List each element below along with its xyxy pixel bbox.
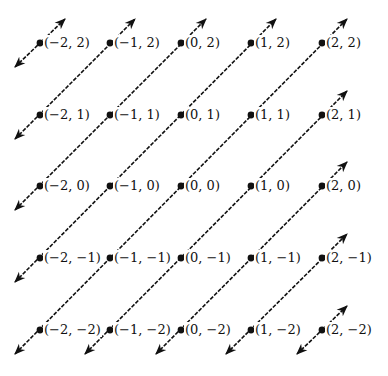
point-label: (0, −2) <box>184 322 232 337</box>
point-label: (2, 0) <box>325 178 362 193</box>
point-label: (−1, −2) <box>113 322 172 337</box>
point-label: (2, 2) <box>325 35 362 50</box>
point-label: (0, 0) <box>184 178 221 193</box>
point-label: (2, −1) <box>325 250 373 265</box>
point-label: (−2, 0) <box>43 178 91 193</box>
point-label: (−2, 1) <box>43 107 91 122</box>
point-label: (2, −2) <box>325 322 373 337</box>
lattice-diagram: (−2, 2)(−1, 2)(0, 2)(1, 2)(2, 2)(−2, 1)(… <box>0 0 388 376</box>
point-label: (−1, 2) <box>113 35 161 50</box>
point-label: (0, 1) <box>184 107 221 122</box>
point-label: (1, −2) <box>254 322 302 337</box>
point-label: (1, 1) <box>254 107 291 122</box>
point-label: (−2, −2) <box>43 322 102 337</box>
diagonal-line-x-minus-y-eq-1 <box>85 91 347 354</box>
point-label: (−1, −1) <box>113 250 172 265</box>
diagonal-line-x-minus-y-eq-neg1 <box>15 19 276 282</box>
point-label: (1, 2) <box>254 35 291 50</box>
point-label: (0, 2) <box>184 35 221 50</box>
point-label: (0, −1) <box>184 250 232 265</box>
point-label: (1, 0) <box>254 178 291 193</box>
point-label: (−2, −1) <box>43 250 102 265</box>
point-label: (2, 1) <box>325 107 362 122</box>
point-label: (1, −1) <box>254 250 302 265</box>
point-label: (−2, 2) <box>43 35 91 50</box>
point-label: (−1, 1) <box>113 107 161 122</box>
point-label: (−1, 0) <box>113 178 161 193</box>
